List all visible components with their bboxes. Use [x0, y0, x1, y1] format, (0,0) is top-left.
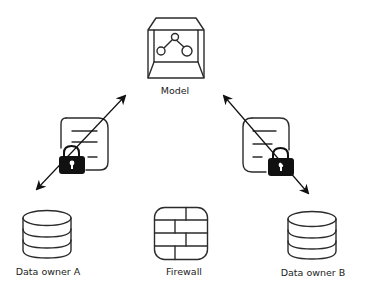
data-owner-b-node	[286, 210, 338, 261]
lock-icon	[59, 146, 85, 174]
database-icon	[21, 209, 73, 260]
firewall-node	[153, 206, 209, 261]
arrow-data-owner-a-model	[37, 96, 125, 189]
encrypted-document-left	[59, 118, 108, 174]
data-owner-b-label: Data owner B	[281, 268, 346, 278]
firewall-label: Firewall	[166, 267, 202, 277]
firewall-icon	[153, 206, 209, 261]
arrow-data-owner-b-model	[224, 96, 308, 193]
diagram-canvas: Model	[0, 0, 367, 290]
database-icon	[286, 210, 338, 261]
data-owner-a-node	[21, 209, 73, 260]
data-owner-a-label: Data owner A	[16, 267, 81, 277]
